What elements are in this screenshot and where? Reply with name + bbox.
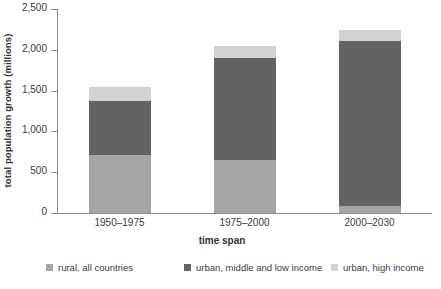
y-axis-tick: 2,000 <box>51 50 57 51</box>
y-axis-title-text: total population growth (millions) <box>3 33 14 187</box>
legend-swatch-icon <box>46 264 53 271</box>
bar-segment[interactable] <box>89 155 151 213</box>
legend-item[interactable]: urban, middle and low income <box>184 262 322 273</box>
y-axis-tick-label: 500 <box>30 165 47 176</box>
bar-segment[interactable] <box>339 41 401 206</box>
bar-group[interactable] <box>339 30 401 213</box>
x-axis-tick-label: 1950–1975 <box>50 217 190 228</box>
y-axis-tick: 2,500 <box>51 9 57 10</box>
legend-label: urban, high income <box>343 262 424 273</box>
y-axis-tick: 500 <box>51 172 57 173</box>
y-axis-tick-label: 1,500 <box>22 84 47 95</box>
y-axis-title: total population growth (millions) <box>0 0 16 220</box>
legend-item[interactable]: urban, high income <box>331 262 424 273</box>
bar-group[interactable] <box>214 46 276 213</box>
bar-segment[interactable] <box>214 46 276 58</box>
x-axis-line <box>57 213 432 214</box>
x-axis-title: time span <box>57 235 387 246</box>
y-axis-tick-label: 1,000 <box>22 124 47 135</box>
bar-segment[interactable] <box>339 206 401 213</box>
chart-legend: rural, all countriesurban, middle and lo… <box>0 262 441 282</box>
x-axis-tick-label: 1975–2000 <box>175 217 315 228</box>
bar-segment[interactable] <box>214 160 276 213</box>
y-axis-line <box>57 9 58 213</box>
x-axis-tick-label: 2000–2030 <box>300 217 440 228</box>
bar-segment[interactable] <box>214 58 276 160</box>
stacked-bar-chart: total population growth (millions) 05001… <box>0 0 441 289</box>
y-axis-tick: 1,500 <box>51 91 57 92</box>
bar-segment[interactable] <box>89 87 151 101</box>
legend-swatch-icon <box>184 264 191 271</box>
legend-swatch-icon <box>331 264 338 271</box>
y-axis-tick-label: 2,000 <box>22 43 47 54</box>
bar-segment[interactable] <box>89 101 151 155</box>
y-axis-tick: 1,000 <box>51 131 57 132</box>
legend-label: urban, middle and low income <box>196 262 322 273</box>
plot-area: 05001,0001,5002,0002,500 1950–19751975–2… <box>57 9 432 213</box>
bar-segment[interactable] <box>339 30 401 41</box>
y-axis-tick: 0 <box>51 213 57 214</box>
y-axis-tick-label: 2,500 <box>22 2 47 13</box>
legend-item[interactable]: rural, all countries <box>46 262 133 273</box>
legend-label: rural, all countries <box>58 262 133 273</box>
bar-group[interactable] <box>89 87 151 213</box>
y-axis-tick-label: 0 <box>41 206 47 217</box>
